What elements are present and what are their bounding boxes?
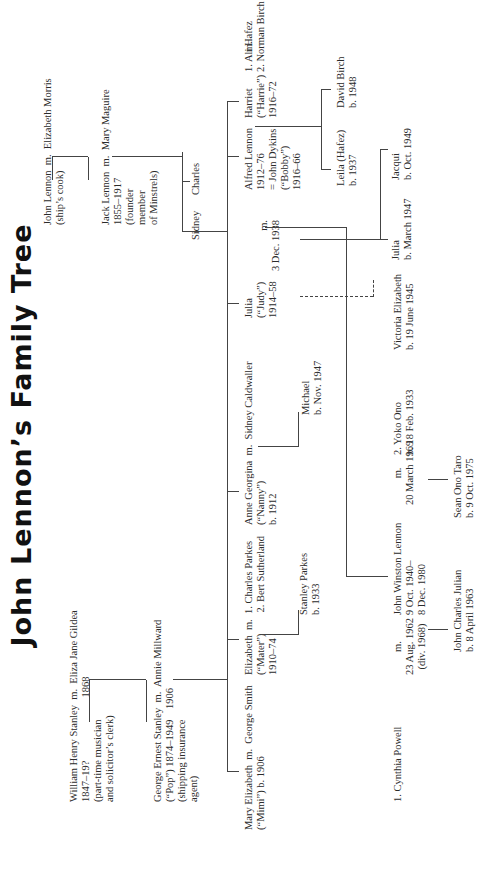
julia-b-1947: Julia b. March 1947 <box>390 198 414 260</box>
connector-line <box>380 149 388 150</box>
connector-line <box>227 101 239 102</box>
connector-line <box>380 239 388 240</box>
connector-line <box>182 231 227 232</box>
charles: Charles <box>190 163 202 195</box>
elizabeth-mater: Elizabeth m. 1. Charles Parkes (“Mater”)… <box>243 536 279 675</box>
victoria-elizabeth: Victoria Elizabeth b. 19 June 1945 <box>392 274 416 350</box>
dashed-connector <box>300 296 373 297</box>
connector-line <box>321 90 322 170</box>
william-henry-stanley: William Henry Stanley m. Eliza Jane Gild… <box>68 610 116 802</box>
sidney: Sidney <box>190 211 202 240</box>
yoko-ono: 2. Yoko Ono b. 18 Feb. 1933 <box>392 389 416 455</box>
page-title: John Lennon’s Family Tree <box>6 0 37 870</box>
connector-line <box>298 610 299 635</box>
harriet-spouses: 1. Ali Hafez 2. Norman Birch <box>243 1 267 72</box>
connector-line <box>89 679 146 680</box>
connector-line <box>321 89 331 90</box>
connector-line <box>227 303 239 304</box>
connector-line <box>258 446 298 447</box>
michael: Michael b. Nov. 1947 <box>300 361 324 415</box>
anne-georgina: Anne Georgina m. Sidney Caldwaller (“Nan… <box>243 362 279 525</box>
family-tree-page: John Lennon’s Family Tree William Henry … <box>0 0 493 870</box>
sean-ono-taro: Sean Ono Taro b. 9 Oct. 1975 <box>452 455 476 518</box>
leila-hafez: Leila (Hafez) b. 1937 <box>335 130 359 186</box>
david-birch: David Birch b. 1948 <box>335 56 359 108</box>
connector-line <box>89 680 90 722</box>
cynthia-powell: 1. Cynthia Powell <box>392 726 404 802</box>
alfred-lennon: Alfred Lennon 1912–76 = John Dykins (“Bo… <box>243 128 303 190</box>
connector-line <box>88 157 89 180</box>
connector-line <box>298 412 299 447</box>
connector-line <box>227 771 239 772</box>
connector-line <box>182 152 183 232</box>
connector-line <box>300 239 380 240</box>
mary-elizabeth: Mary Elizabeth m. George Smith (“Mimi”) … <box>243 685 267 830</box>
connector-line <box>346 227 347 577</box>
julia-marriage-date: m. 3 Dec. 1938 <box>258 220 282 300</box>
connector-line <box>255 126 321 127</box>
connector-line <box>346 576 388 577</box>
connector-line <box>260 634 298 635</box>
sibling-bar-main <box>227 102 228 772</box>
connector-line <box>52 157 53 180</box>
connector-line <box>380 150 381 240</box>
george-ernest-stanley: George Ernest Stanley m. Annie Millward … <box>152 620 200 802</box>
john-lennon-sr: John Lennon m. Elizabeth Morris (ship’s … <box>42 78 66 225</box>
connector-line <box>173 679 227 680</box>
john-charles-julian: John Charles Julian b. 8 April 1963 <box>452 570 476 652</box>
jack-lennon: Jack Lennon m. Mary Maguire 1855–1917 (f… <box>100 89 160 225</box>
connector-line <box>321 169 331 170</box>
cynthia-marriage: m. 23 Aug. 1962 (div. 1968) <box>392 618 428 675</box>
dashed-connector <box>373 280 374 297</box>
harriet: Harriet (“Harrie”) 1916–72 <box>243 75 279 118</box>
connector-line <box>227 491 239 492</box>
jacqui: Jacqui b. Oct. 1949 <box>390 128 414 180</box>
connector-line <box>265 227 346 228</box>
connector-line <box>227 639 239 640</box>
connector-line <box>182 181 190 182</box>
connector-line <box>52 156 88 157</box>
connector-line <box>227 156 239 157</box>
stanley-parkes: Stanley Parkes b. 1933 <box>298 553 322 615</box>
connector-line <box>428 479 448 480</box>
connector-line <box>146 680 147 722</box>
john-winston-lennon: John Winston Lennon 9 Oct. 1940– 8 Dec. … <box>392 523 428 615</box>
connector-line <box>112 156 182 157</box>
connector-line <box>428 629 448 630</box>
